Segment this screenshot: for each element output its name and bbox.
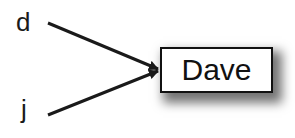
edge-j-to-dave [48,71,158,115]
source-node-j: j [21,96,27,122]
target-node-dave: Dave [160,47,273,93]
edge-d-to-dave [48,23,158,69]
target-node-label: Dave [181,53,251,87]
source-node-d: d [16,9,30,35]
